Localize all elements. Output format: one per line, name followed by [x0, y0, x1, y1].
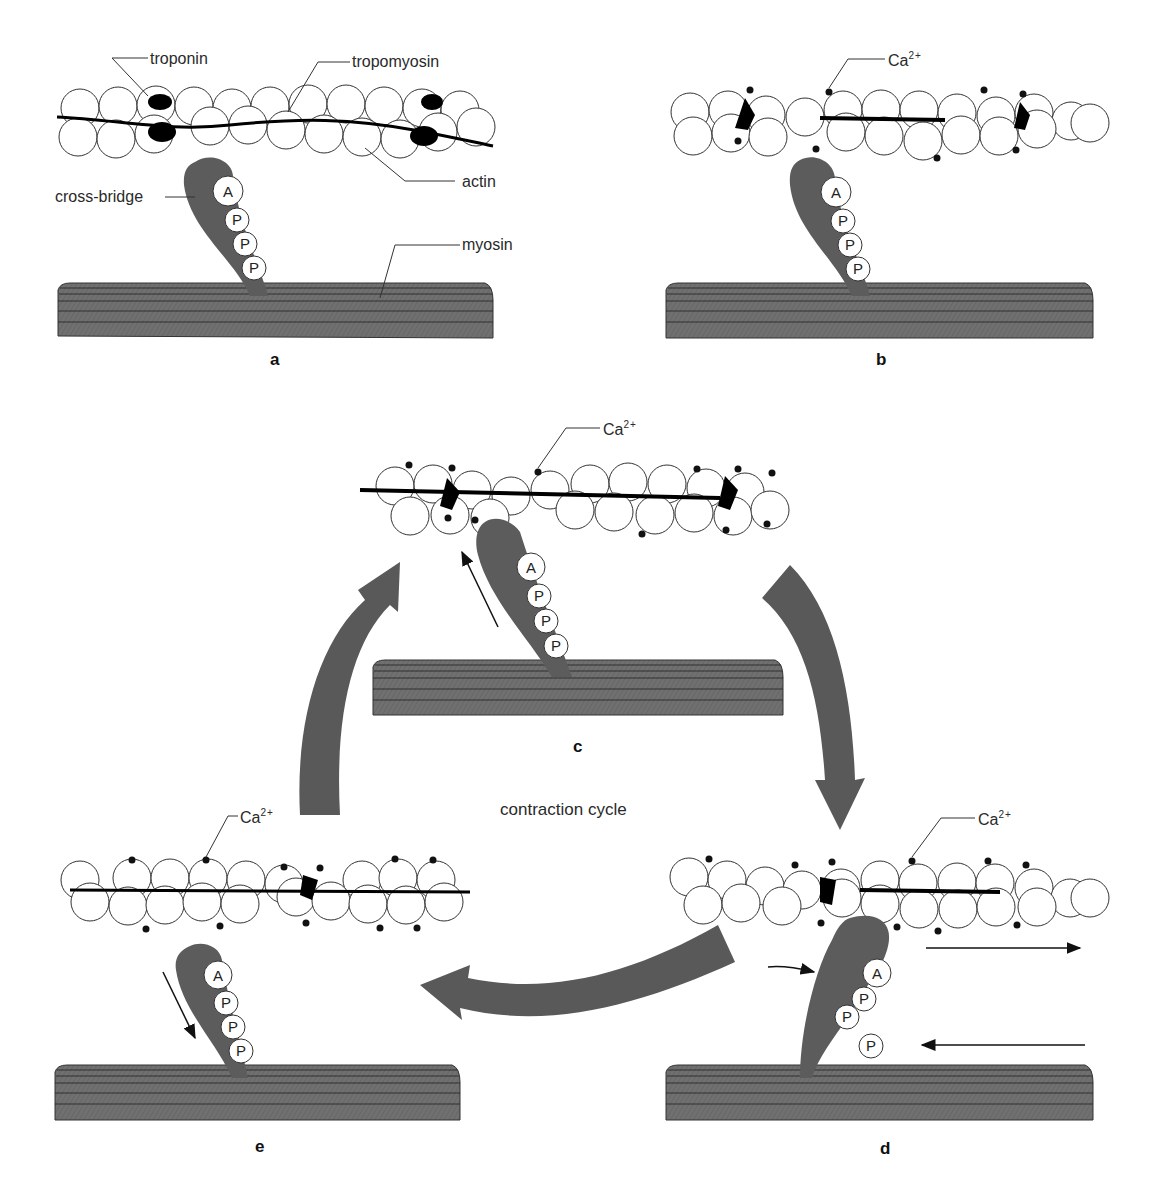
cycle-title: contraction cycle [500, 801, 627, 818]
label-troponin: troponin [150, 51, 208, 67]
myosin-filament [666, 283, 1093, 338]
panel-letter-e: e [255, 1138, 264, 1155]
svg-text:A: A [872, 965, 882, 982]
svg-text:P: P [541, 612, 551, 629]
troponin-top-right [421, 94, 443, 110]
svg-text:P: P [232, 211, 242, 228]
svg-text:P: P [853, 260, 863, 277]
power-stroke-arrow [768, 967, 814, 972]
svg-text:P: P [859, 990, 869, 1007]
svg-text:P: P [249, 259, 259, 276]
label-tropomyosin: tropomyosin [352, 54, 439, 70]
svg-text:P: P [845, 236, 855, 253]
myosin-filament [373, 660, 783, 715]
svg-text:P: P [240, 235, 250, 252]
cycle-arrow-d-to-e [420, 925, 735, 1020]
cycle-arrows [299, 562, 865, 1020]
svg-text:A: A [223, 183, 233, 200]
svg-text:A: A [213, 967, 223, 984]
label-calcium-b: Ca2+ [888, 51, 922, 69]
myosin-filament [55, 1065, 460, 1120]
panel-letter-b: b [876, 351, 886, 368]
panel-b: A P P P [666, 59, 1109, 338]
svg-text:P: P [842, 1008, 852, 1025]
label-calcium-e: Ca2+ [240, 808, 274, 826]
myosin-filament [666, 1065, 1093, 1120]
myosin-filament [58, 283, 493, 338]
svg-text:P: P [551, 637, 561, 654]
label-cross-bridge: cross-bridge [55, 189, 143, 205]
svg-text:P: P [228, 1018, 238, 1035]
svg-text:P: P [221, 994, 231, 1011]
svg-text:P: P [866, 1037, 876, 1054]
label-calcium-c: Ca2+ [603, 420, 637, 438]
label-calcium-d: Ca2+ [978, 810, 1012, 828]
label-actin: actin [462, 174, 496, 190]
panel-letter-d: d [880, 1140, 890, 1157]
svg-text:A: A [831, 184, 841, 201]
svg-text:A: A [526, 559, 536, 576]
troponin-top [148, 94, 172, 110]
troponin-bottom [148, 122, 176, 142]
svg-text:P: P [236, 1042, 246, 1059]
panel-c: A P P P [360, 428, 789, 715]
svg-text:P: P [838, 212, 848, 229]
panel-letter-c: c [573, 738, 582, 755]
troponin-bottom-right [410, 126, 438, 146]
panel-e: A P P P [55, 816, 470, 1120]
svg-text:P: P [534, 587, 544, 604]
panel-letter-a: a [270, 351, 279, 368]
panel-d: A P P P [666, 818, 1109, 1120]
contraction-cycle-diagram: A P P P [0, 0, 1156, 1185]
label-myosin: myosin [462, 237, 513, 253]
